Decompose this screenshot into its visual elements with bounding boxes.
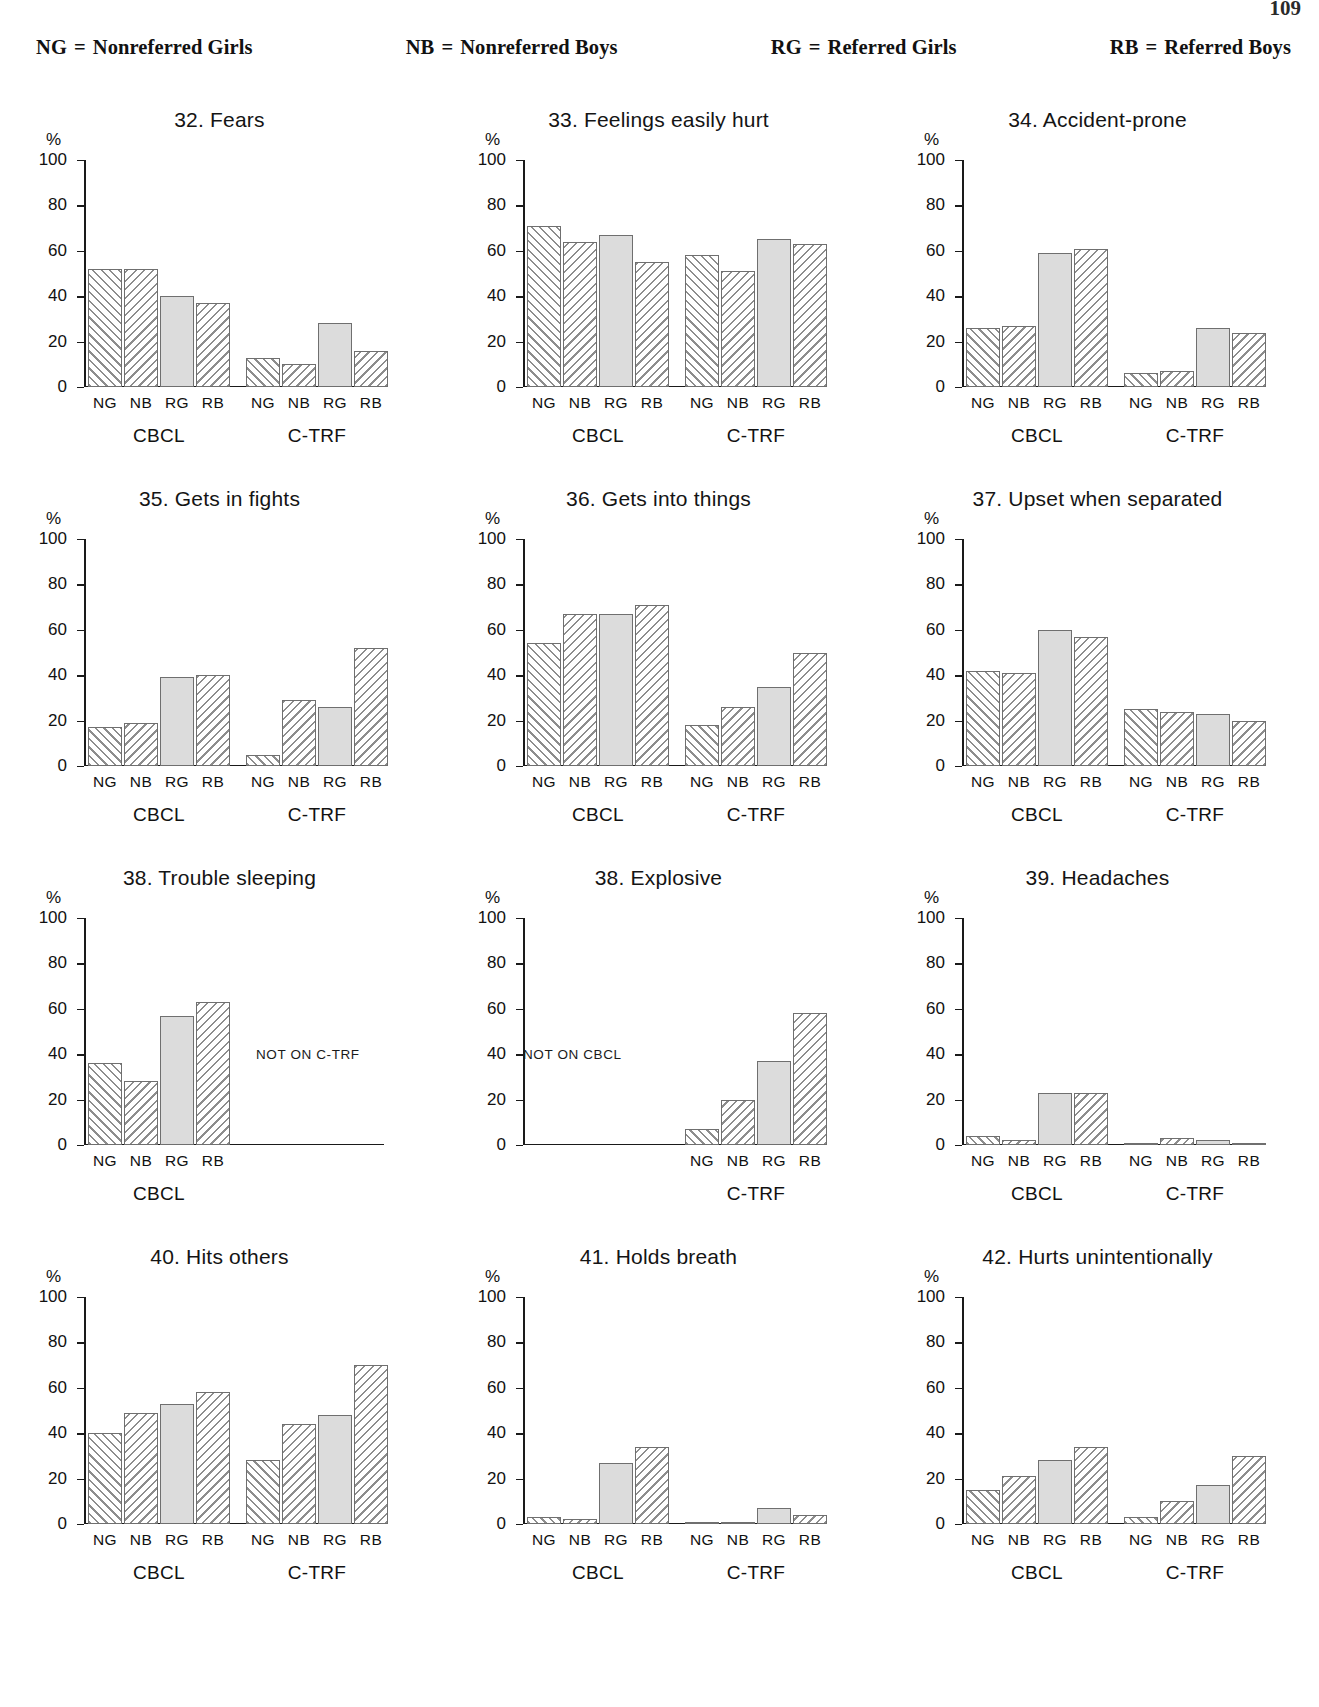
y-axis-tick-label: 0 (936, 377, 945, 397)
y-axis-line (523, 160, 525, 387)
bar-nb (721, 1100, 755, 1145)
legend-entry-ng: NG=Nonreferred Girls (36, 36, 253, 59)
chart-title: 36. Gets into things (439, 487, 878, 511)
legend-abbr: RG (771, 36, 802, 59)
y-axis-tick: 100 (516, 918, 523, 919)
x-axis-category-label: NG (685, 773, 719, 791)
y-axis-tick: 100 (516, 1297, 523, 1298)
y-axis-tick: 60 (955, 1009, 962, 1010)
legend-label: Nonreferred Boys (460, 36, 617, 59)
x-axis-category-label: NG (1124, 1152, 1158, 1170)
bar-nb (124, 723, 158, 766)
group-label-cbcl: CBCL (527, 425, 669, 447)
y-axis-unit: % (46, 888, 61, 908)
bar-ng (527, 643, 561, 766)
plot-area: %100806040200NGNBRGRBCBCLNGNBRGRBC-TRF (962, 1297, 1262, 1524)
y-axis-line (962, 160, 964, 387)
group-label-c-trf: C-TRF (685, 425, 827, 447)
y-axis-tick: 100 (516, 160, 523, 161)
y-axis-tick-label: 100 (39, 908, 67, 928)
bar-rb (635, 1447, 669, 1524)
chart-panel: 42. Hurts unintentionally%100806040200NG… (878, 1237, 1317, 1616)
y-axis-tick-label: 60 (926, 1378, 945, 1398)
bar-ng (685, 1522, 719, 1524)
x-axis-category-label: RB (1074, 394, 1108, 412)
y-axis-tick-label: 80 (926, 953, 945, 973)
x-axis-category-label: RG (599, 1531, 633, 1549)
x-axis-category-label: NG (246, 1531, 280, 1549)
bar-rg (599, 1463, 633, 1524)
y-axis-tick: 100 (955, 918, 962, 919)
bar-nb (563, 614, 597, 766)
bar-rb (1232, 1143, 1266, 1145)
y-axis-tick: 60 (516, 1388, 523, 1389)
y-axis-tick-label: 100 (917, 529, 945, 549)
bar-rb (354, 648, 388, 766)
group-label-cbcl: CBCL (88, 1562, 230, 1584)
group-label-cbcl: CBCL (88, 1183, 230, 1205)
chart-title: 38. Explosive (439, 866, 878, 890)
bar-rg (757, 1508, 791, 1524)
y-axis-tick: 100 (516, 539, 523, 540)
bar-ng (527, 226, 561, 387)
y-axis-tick-label: 60 (48, 620, 67, 640)
bar-ng (88, 727, 122, 766)
y-axis-tick: 60 (77, 1388, 84, 1389)
x-axis-category-label: RB (196, 773, 230, 791)
x-axis-category-label: NG (88, 1152, 122, 1170)
bar-rg (160, 296, 194, 387)
y-axis-tick: 0 (516, 766, 523, 767)
y-axis-tick-label: 0 (936, 1514, 945, 1534)
x-axis-category-label: RG (1038, 1152, 1072, 1170)
y-axis-tick: 20 (955, 1479, 962, 1480)
group-label-c-trf: C-TRF (685, 804, 827, 826)
y-axis-tick-label: 60 (487, 1378, 506, 1398)
y-axis-tick-label: 40 (48, 1044, 67, 1064)
y-axis-tick: 0 (955, 387, 962, 388)
y-axis-tick: 40 (516, 296, 523, 297)
x-axis-category-label: RB (1232, 773, 1266, 791)
y-axis-tick: 40 (77, 296, 84, 297)
bar-nb (1160, 1138, 1194, 1145)
y-axis-line (962, 539, 964, 766)
y-axis-tick-label: 100 (478, 529, 506, 549)
x-axis-category-label: NG (246, 773, 280, 791)
x-axis-category-label: NG (527, 1531, 561, 1549)
legend-abbr: NG (36, 36, 67, 59)
x-axis-category-label: RG (1196, 1531, 1230, 1549)
y-axis-tick: 0 (516, 1145, 523, 1146)
y-axis-unit: % (924, 1267, 939, 1287)
y-axis-tick-label: 100 (917, 150, 945, 170)
bar-rb (1232, 721, 1266, 766)
x-axis-category-label: NG (966, 1531, 1000, 1549)
y-axis-tick-label: 80 (487, 574, 506, 594)
bar-rg (160, 1016, 194, 1145)
bar-rg (1038, 253, 1072, 387)
y-axis-tick: 20 (77, 1479, 84, 1480)
plot-area: %100806040200NGNBRGRBCBCLNGNBRGRBC-TRF (84, 539, 384, 766)
x-axis-category-label: RG (757, 1152, 791, 1170)
y-axis-tick-label: 60 (926, 620, 945, 640)
group-label-c-trf: C-TRF (246, 425, 388, 447)
bar-ng (685, 255, 719, 387)
y-axis-tick: 20 (77, 342, 84, 343)
x-axis-category-label: NB (282, 1531, 316, 1549)
y-axis-tick-label: 20 (926, 711, 945, 731)
x-axis-category-label: NB (1002, 394, 1036, 412)
bar-rg (757, 687, 791, 766)
y-axis-tick-label: 0 (497, 1135, 506, 1155)
x-axis-category-label: NG (527, 394, 561, 412)
x-axis-category-label: RG (757, 1531, 791, 1549)
x-axis-category-label: NG (966, 1152, 1000, 1170)
x-axis-category-label: NG (685, 1152, 719, 1170)
y-axis-tick-label: 0 (497, 377, 506, 397)
y-axis-tick-label: 80 (926, 1332, 945, 1352)
legend-abbr: NB (406, 36, 435, 59)
plot-area: %100806040200NGNBRGRBCBCLNOT ON C-TRF (84, 918, 384, 1145)
x-axis-category-label: NB (124, 1531, 158, 1549)
y-axis-tick: 40 (77, 675, 84, 676)
y-axis-tick-label: 80 (48, 953, 67, 973)
group-label-cbcl: CBCL (966, 1183, 1108, 1205)
bar-rg (1196, 714, 1230, 766)
y-axis-tick-label: 0 (497, 1514, 506, 1534)
